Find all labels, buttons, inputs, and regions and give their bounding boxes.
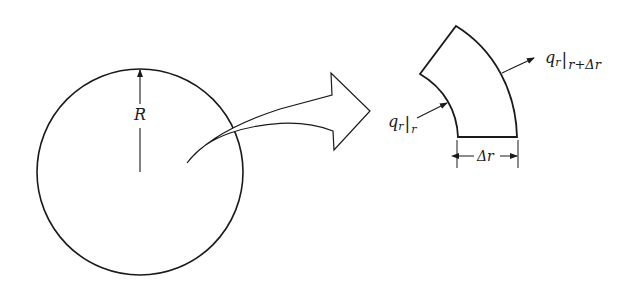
flux-in-arrow [417,103,447,118]
flux-in-subscript: r [398,120,403,133]
flux-out-eval: r+Δr [568,57,601,72]
magnify-arrow [187,73,370,163]
thickness-symbol: Δr [477,148,494,164]
eval-bar: | [562,49,568,69]
flux-in-symbol: q [388,112,398,131]
flux-in-eval: r [411,123,416,136]
flux-out-label: qr|r+Δr [545,49,601,66]
flux-out-subscript: r [555,56,560,69]
eval-bar: | [405,113,411,133]
thickness-label: Δr [477,149,494,163]
shell-element [420,26,517,137]
flux-out-symbol: q [545,48,555,67]
radius-symbol: R [134,105,146,124]
radius-label: R [134,107,146,123]
diagram-canvas [0,0,635,290]
flux-out-arrow [502,58,534,73]
flux-in-label: qr|r [388,113,417,130]
